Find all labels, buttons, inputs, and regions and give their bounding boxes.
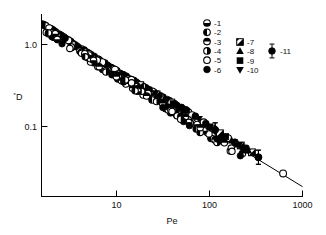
marker-circle-open	[67, 45, 73, 51]
marker-circle-open	[204, 57, 211, 64]
marker-circle-open	[128, 80, 134, 86]
marker-circle-open	[169, 108, 175, 114]
legend-item-11[interactable]: -11	[269, 44, 292, 58]
x-tick-label-100: 100	[202, 200, 217, 210]
legend-label-3: -3	[214, 38, 222, 47]
marker-circle-half-bottom-open	[204, 38, 211, 45]
legend-label-2: -2	[214, 28, 222, 37]
marker-square-filled	[237, 57, 244, 64]
figure-root: 1.0 0.1 10 100 1000 Pe *D -1-2-3-4-5-6-7…	[0, 0, 326, 235]
marker-circle-half-bottom-filled	[204, 20, 211, 27]
log-log-scatter-plot: 1.0 0.1 10 100 1000 Pe *D -1-2-3-4-5-6-7…	[0, 0, 326, 235]
x-axis-title: Pe	[166, 216, 177, 226]
legend-label-9: -9	[247, 57, 255, 66]
marker-circle-half-bottom-filled	[54, 36, 60, 42]
marker-circle-open	[229, 148, 235, 154]
marker-circle-half-bottom-open	[221, 140, 227, 146]
marker-circle-half-bottom-open	[197, 125, 203, 131]
marker-circle-half-left-filled	[132, 88, 138, 94]
marker-square-diagonal-filled	[237, 39, 244, 46]
legend-label-10: -10	[247, 66, 259, 75]
marker-circle-open	[280, 170, 287, 177]
marker-circle-filled	[186, 122, 192, 128]
y-axis-title: *D	[14, 92, 23, 102]
marker-circle-half-left-filled	[204, 29, 211, 36]
legend-label-5: -5	[214, 56, 222, 65]
marker-circle-half-left-filled	[45, 30, 51, 36]
marker-circle-half-right-filled	[103, 69, 109, 75]
legend-label-7: -7	[247, 38, 255, 47]
marker-circle-half-bottom-filled	[90, 57, 96, 63]
legend-label-4: -4	[214, 47, 222, 56]
svg-text:*D: *D	[14, 92, 23, 102]
marker-circle-half-bottom-open	[113, 74, 119, 80]
y-tick-label-0.1: 0.1	[24, 122, 37, 132]
marker-circle-half-right-filled	[178, 116, 184, 122]
marker-circle-filled	[214, 136, 220, 142]
marker-circle-half-left-filled	[122, 77, 128, 83]
marker-circle-half-right-filled	[204, 48, 211, 55]
marker-circle-filled	[204, 66, 211, 73]
marker-circle-half-left-filled	[82, 54, 88, 60]
legend-label-1: -1	[214, 19, 222, 28]
y-axis-title-main: D	[16, 92, 23, 102]
legend-label-6: -6	[214, 66, 222, 75]
x-tick-label-10: 10	[111, 200, 121, 210]
legend-label-11: -11	[280, 47, 292, 56]
marker-circle-filled	[237, 153, 243, 159]
y-tick-label-1: 1.0	[24, 40, 37, 50]
marker-circle-half-right-filled	[153, 98, 159, 104]
x-tick-label-1000: 1000	[292, 200, 312, 210]
legend-label-8: -8	[247, 47, 255, 56]
